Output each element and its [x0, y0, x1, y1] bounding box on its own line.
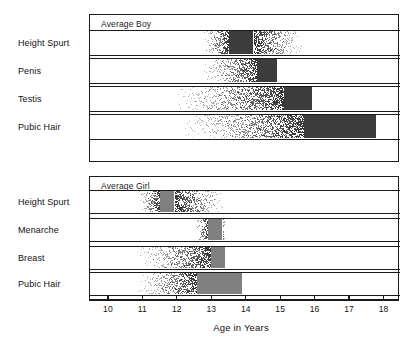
- row-label-menarche: Menarche: [18, 225, 84, 235]
- event-bar-boy-panel-pubic-hair: [173, 115, 376, 138]
- event-bar-boy-panel-testis: [167, 87, 312, 110]
- row-label-testis: Testis: [18, 94, 84, 104]
- row-label-pubic-hair: Pubic Hair: [18, 122, 84, 132]
- row-label-height-spurt: Height Spurt: [18, 38, 84, 48]
- x-tick-label: 11: [131, 304, 153, 314]
- x-tick-label: 17: [338, 304, 360, 314]
- x-tick-label: 12: [166, 304, 188, 314]
- event-bar-boy-panel-penis: [198, 59, 277, 82]
- row-label-height-spurt: Height Spurt: [18, 197, 84, 207]
- axis-title: Age in Years: [0, 322, 420, 333]
- x-tick-label: 15: [269, 304, 291, 314]
- row-label-penis: Penis: [18, 66, 84, 76]
- x-tick-label: 10: [97, 304, 119, 314]
- row-band: [90, 218, 400, 242]
- axis-line: [89, 300, 399, 301]
- boy-panel-title: Average Boy: [101, 19, 151, 29]
- event-bar-girl-panel-height-spurt: [136, 191, 226, 212]
- row-label-pubic-hair: Pubic Hair: [18, 279, 84, 289]
- event-bar-girl-panel-pubic-hair: [132, 273, 242, 294]
- event-bar-girl-panel-menarche: [194, 219, 225, 240]
- event-bar-girl-panel-breast: [132, 247, 225, 268]
- x-tick-label: 14: [235, 304, 257, 314]
- x-tick-label: 13: [200, 304, 222, 314]
- axis-title-label: Age in Years: [213, 322, 269, 333]
- event-bar-boy-panel-height-spurt: [201, 31, 304, 54]
- x-tick-label: 18: [373, 304, 395, 314]
- x-tick-label: 16: [304, 304, 326, 314]
- row-label-breast: Breast: [18, 253, 84, 263]
- puberty-sequence-chart: Average Boy Average Girl 101112131415161…: [0, 0, 420, 350]
